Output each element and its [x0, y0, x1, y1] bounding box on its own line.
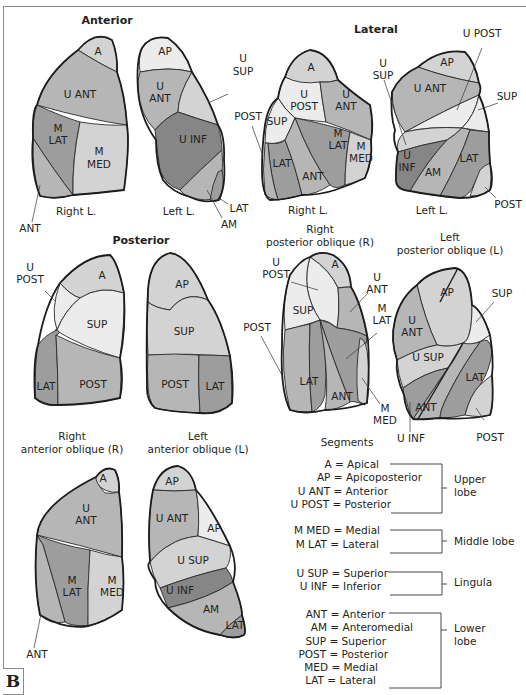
svg-text:LAT: LAT — [37, 380, 56, 392]
svg-text:LAT: LAT — [466, 371, 485, 383]
svg-text:MED: MED — [100, 586, 124, 598]
lao-title-line2: anterior oblique (L) — [147, 443, 248, 455]
rao-right-lung: A U ANT M LAT M MED ANT — [26, 469, 124, 660]
svg-text:SUP: SUP — [233, 65, 254, 77]
lateral-title: Lateral — [354, 23, 398, 36]
svg-text:U SUP: U SUP — [177, 554, 209, 566]
svg-text:A: A — [307, 61, 315, 73]
svg-text:SUP: SUP — [497, 90, 518, 102]
anterior-right-caption: Right L. — [56, 205, 96, 217]
svg-text:U ANT: U ANT — [156, 512, 189, 524]
svg-text:AP = Apicoposterior: AP = Apicoposterior — [317, 471, 423, 483]
svg-text:Lingula: Lingula — [454, 576, 492, 588]
svg-text:U ANT: U ANT — [414, 82, 447, 94]
svg-text:U: U — [272, 256, 280, 268]
svg-text:U ANT = Anterior: U ANT = Anterior — [298, 485, 389, 497]
svg-text:M: M — [107, 574, 116, 586]
svg-text:SUP: SUP — [492, 287, 513, 299]
svg-text:ANT = Anterior: ANT = Anterior — [306, 608, 386, 620]
svg-text:ANT: ANT — [19, 222, 41, 234]
posterior-left-lung: AP SUP POST LAT — [147, 253, 233, 413]
svg-text:AP: AP — [158, 45, 172, 57]
lateral-right-caption: Right L. — [288, 204, 328, 216]
svg-text:A: A — [94, 45, 102, 57]
svg-text:M LAT = Lateral: M LAT = Lateral — [296, 538, 379, 550]
rao-title-line1: Right — [58, 430, 86, 442]
svg-text:POST: POST — [79, 378, 107, 390]
svg-text:LAT: LAT — [206, 380, 225, 392]
svg-text:POST: POST — [234, 110, 262, 122]
svg-text:AP: AP — [440, 56, 454, 68]
svg-text:U ANT: U ANT — [64, 88, 97, 100]
svg-text:LAT: LAT — [49, 134, 68, 146]
svg-text:U: U — [239, 52, 247, 64]
svg-text:M: M — [53, 122, 62, 134]
svg-text:Middle lobe: Middle lobe — [454, 535, 515, 547]
svg-text:POST: POST — [262, 268, 290, 280]
svg-text:ANT: ANT — [149, 92, 171, 104]
svg-text:U INF: U INF — [166, 584, 194, 596]
svg-text:LAT = Lateral: LAT = Lateral — [305, 674, 376, 686]
svg-text:MED: MED — [87, 158, 111, 170]
svg-text:lobe: lobe — [454, 486, 476, 498]
svg-text:M MED = Medial: M MED = Medial — [294, 524, 380, 536]
rpo-right-lung: U POST A U ANT M LAT SUP POST LAT ANT M … — [243, 253, 397, 426]
svg-text:M: M — [67, 574, 76, 586]
svg-text:AP: AP — [440, 286, 454, 298]
svg-text:POST = Posterior: POST = Posterior — [298, 648, 388, 660]
svg-text:MED: MED — [349, 152, 373, 164]
svg-text:MED = Medial: MED = Medial — [304, 661, 378, 673]
svg-text:ANT: ANT — [331, 390, 353, 402]
panel-letter-badge: B — [3, 668, 24, 695]
svg-text:SUP: SUP — [293, 304, 314, 316]
svg-text:AP: AP — [175, 278, 189, 290]
svg-text:ANT: ANT — [415, 401, 437, 413]
lateral-left-caption: Left L. — [416, 204, 448, 216]
svg-text:SUP: SUP — [174, 325, 195, 337]
svg-text:U: U — [300, 88, 308, 100]
anterior-title: Anterior — [81, 14, 133, 27]
svg-text:U: U — [379, 57, 387, 69]
svg-text:U INF: U INF — [179, 133, 207, 145]
svg-text:A = Apical: A = Apical — [324, 458, 379, 470]
posterior-title: Posterior — [112, 234, 170, 247]
svg-text:M: M — [356, 140, 365, 152]
svg-text:AP: AP — [207, 522, 221, 534]
rpo-title-line2: posterior oblique (R) — [266, 236, 374, 248]
segments-legend: Segments A = Apical AP = Apicoposterior … — [290, 436, 514, 688]
svg-text:LAT: LAT — [329, 139, 348, 151]
svg-text:POST: POST — [494, 198, 522, 210]
svg-text:AP: AP — [165, 475, 179, 487]
svg-text:LAT: LAT — [273, 157, 292, 169]
svg-text:ANT: ANT — [335, 100, 357, 112]
svg-text:AM: AM — [221, 218, 237, 230]
svg-text:AM: AM — [425, 166, 441, 178]
svg-text:U POST = Posterior: U POST = Posterior — [290, 498, 391, 510]
legend-title: Segments — [321, 436, 374, 448]
lateral-right-lung: A U POST U ANT SUP M LAT M MED LAT ANT P… — [234, 50, 373, 200]
svg-text:POST: POST — [16, 273, 44, 285]
svg-text:ANT: ANT — [302, 170, 324, 182]
svg-text:U POST: U POST — [463, 27, 502, 39]
svg-text:ANT: ANT — [26, 648, 48, 660]
svg-text:MED: MED — [373, 414, 397, 426]
svg-text:SUP: SUP — [373, 69, 394, 81]
svg-text:LAT: LAT — [63, 586, 82, 598]
anterior-left-caption: Left L. — [163, 205, 195, 217]
svg-text:Upper: Upper — [454, 473, 486, 485]
svg-text:SUP = Superior: SUP = Superior — [305, 635, 386, 647]
svg-text:U SUP = Superior: U SUP = Superior — [296, 567, 388, 579]
rpo-title-line1: Right — [306, 223, 334, 235]
lpo-title-line2: posterior oblique (L) — [397, 244, 504, 256]
lao-title-line1: Left — [188, 430, 208, 442]
svg-text:U: U — [82, 502, 90, 514]
svg-text:LAT: LAT — [373, 314, 392, 326]
lpo-title-line1: Left — [440, 231, 460, 243]
svg-text:U: U — [342, 88, 350, 100]
svg-text:M: M — [333, 127, 342, 139]
svg-text:U: U — [26, 261, 34, 273]
svg-text:U: U — [408, 314, 416, 326]
svg-text:SUP: SUP — [87, 318, 108, 330]
svg-text:M: M — [377, 302, 386, 314]
svg-text:ANT: ANT — [75, 514, 97, 526]
